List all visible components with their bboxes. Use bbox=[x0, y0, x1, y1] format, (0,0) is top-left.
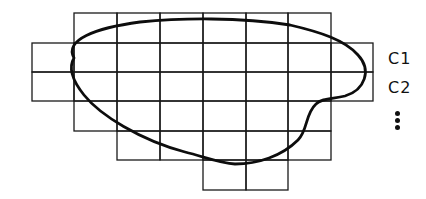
grid-cell bbox=[246, 131, 288, 160]
grid-cell bbox=[160, 43, 203, 72]
grid-cell bbox=[32, 43, 74, 72]
grid-cell bbox=[246, 160, 288, 190]
closed-curve bbox=[71, 19, 365, 164]
grid-cell bbox=[117, 13, 160, 43]
row-label-c1: C1 bbox=[388, 49, 411, 68]
grid-cell bbox=[246, 101, 288, 131]
grid-cell bbox=[203, 72, 246, 101]
grid-cell bbox=[246, 72, 288, 101]
grid-cell bbox=[246, 13, 288, 43]
grid-cell bbox=[203, 43, 246, 72]
grid-cell bbox=[203, 131, 246, 160]
grid-cell bbox=[160, 72, 203, 101]
grid-cell bbox=[331, 43, 373, 72]
grid-cell bbox=[288, 131, 331, 160]
grid-cell bbox=[246, 43, 288, 72]
grid-diagram bbox=[0, 0, 426, 199]
grid-cell bbox=[203, 13, 246, 43]
grid-cell bbox=[203, 101, 246, 131]
grid-cell bbox=[117, 43, 160, 72]
grid-cell bbox=[74, 72, 117, 101]
grid-cell bbox=[160, 101, 203, 131]
row-label-c2: C2 bbox=[388, 78, 411, 97]
grid-cell bbox=[288, 43, 331, 72]
grid-cell bbox=[32, 72, 74, 101]
vertical-ellipsis-icon bbox=[395, 111, 401, 132]
grid-cell bbox=[74, 43, 117, 72]
grid-cell bbox=[160, 13, 203, 43]
grid-cell bbox=[117, 72, 160, 101]
grid-cell bbox=[288, 72, 331, 101]
grid-cell bbox=[288, 13, 331, 43]
